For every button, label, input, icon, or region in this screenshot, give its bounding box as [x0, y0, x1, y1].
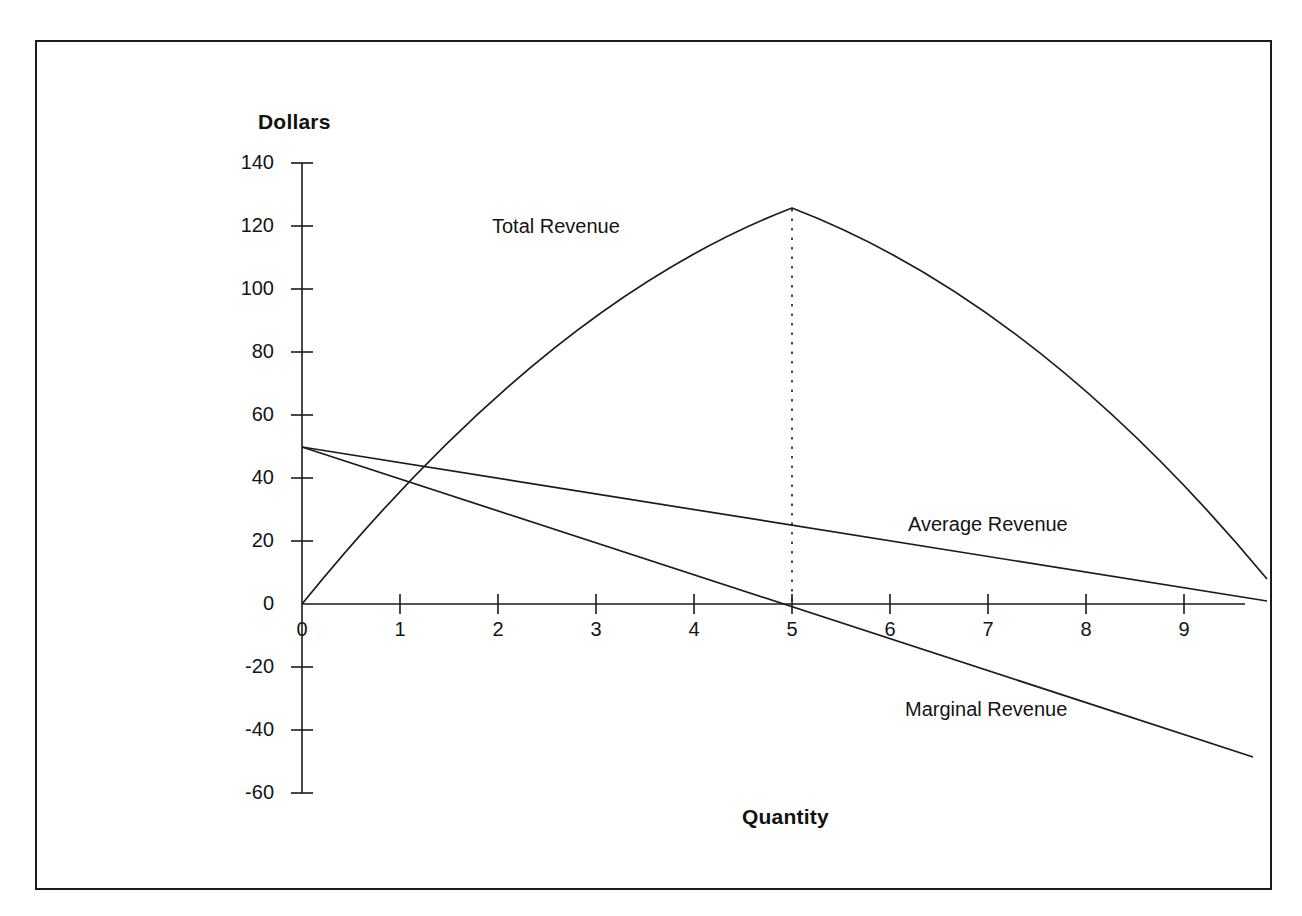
- revenue-curves-figure: Dollars Quantity 140 120 100 80 60 40 20…: [0, 0, 1302, 916]
- total-revenue-curve: [302, 208, 1267, 604]
- x-tick-label-1: 1: [385, 618, 415, 641]
- y-tick-label-60: 60: [212, 403, 274, 426]
- series-label-marginal-revenue: Marginal Revenue: [905, 698, 1067, 721]
- series-label-total-revenue: Total Revenue: [492, 215, 620, 238]
- y-tick-label-40: 40: [212, 466, 274, 489]
- y-tick-label-neg40: -40: [212, 718, 274, 741]
- x-tick-label-4: 4: [679, 618, 709, 641]
- x-tick-label-5: 5: [777, 618, 807, 641]
- x-tick-label-3: 3: [581, 618, 611, 641]
- x-axis-title: Quantity: [742, 805, 829, 829]
- x-tick-label-9: 9: [1169, 618, 1199, 641]
- y-tick-label-140: 140: [212, 151, 274, 174]
- marginal-revenue-line: [302, 447, 1253, 757]
- x-tick-label-6: 6: [875, 618, 905, 641]
- x-tick-label-8: 8: [1071, 618, 1101, 641]
- y-tick-label-80: 80: [212, 340, 274, 363]
- average-revenue-line: [302, 447, 1267, 601]
- y-axis-title: Dollars: [258, 110, 331, 134]
- y-tick-label-120: 120: [212, 214, 274, 237]
- y-tick-label-neg60: -60: [212, 781, 274, 804]
- chart-plot-area: [0, 0, 1302, 916]
- y-tick-label-0: 0: [212, 592, 274, 615]
- y-tick-label-20: 20: [212, 529, 274, 552]
- x-tick-label-2: 2: [483, 618, 513, 641]
- y-tick-label-neg20: -20: [212, 655, 274, 678]
- x-tick-label-0: 0: [287, 618, 317, 641]
- series-label-average-revenue: Average Revenue: [908, 513, 1068, 536]
- y-tick-label-100: 100: [212, 277, 274, 300]
- x-tick-label-7: 7: [973, 618, 1003, 641]
